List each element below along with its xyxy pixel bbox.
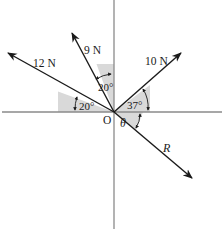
force-diagram: 12 N 9 N 10 N R 20° 20° 37° θ O (0, 0, 224, 229)
angle-label-theta: θ (120, 116, 126, 130)
label-12n: 12 N (33, 57, 56, 69)
angle-label-9n: 20° (98, 81, 113, 93)
label-resultant: R (162, 141, 171, 155)
label-10n: 10 N (145, 55, 168, 67)
label-9n: 9 N (84, 44, 102, 56)
origin-label: O (103, 114, 111, 126)
angle-label-12n: 20° (79, 100, 94, 112)
angle-label-10n: 37° (127, 99, 142, 111)
